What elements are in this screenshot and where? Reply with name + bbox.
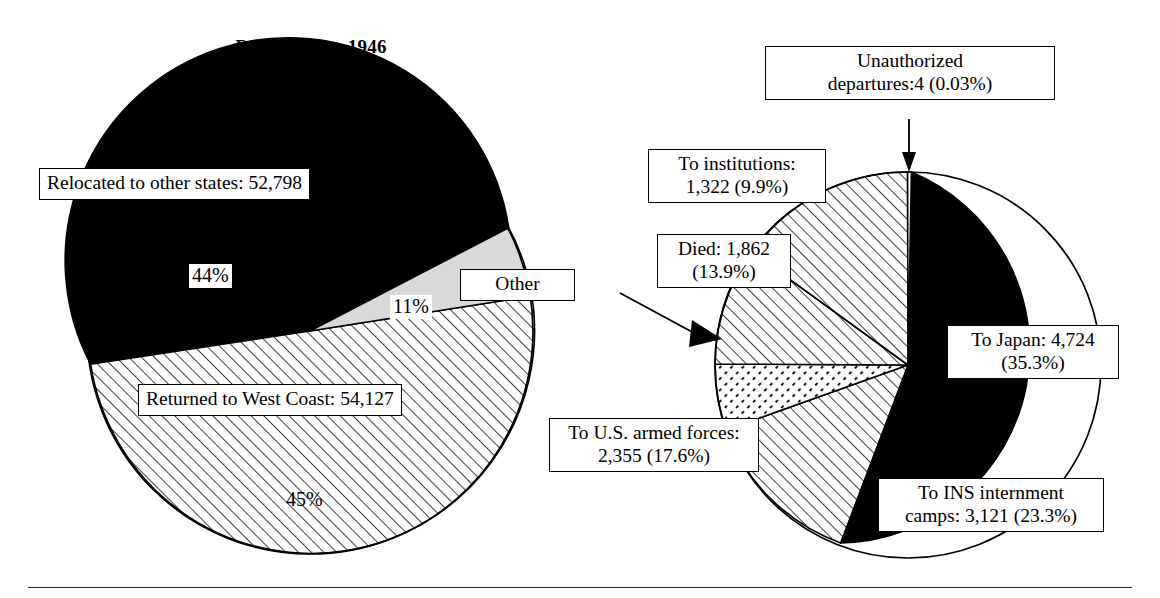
callout-unauthorized-line2: departures:4 (0.03%) (773, 73, 1047, 96)
callout-died-line1: Died: 1,862 (665, 238, 783, 261)
chart-title: Dispersed by 1946 (186, 36, 436, 58)
callout-unauthorized-line1: Unauthorized (773, 50, 1047, 73)
callout-armed-forces-line2: 2,355 (17.6%) (557, 445, 751, 468)
callout-armed-forces-line1: To U.S. armed forces: (557, 422, 751, 445)
callout-died-line2: (13.9%) (665, 261, 783, 284)
callout-institutions-line1: To institutions: (656, 153, 818, 176)
callout-died: Died: 1,862 (13.9%) (657, 234, 791, 288)
callout-ins-line2: camps: 3,121 (23.3%) (886, 505, 1096, 528)
callout-to-us-armed-forces: To U.S. armed forces: 2,355 (17.6%) (549, 418, 759, 472)
callout-to-japan: To Japan: 4,724 (35.3%) (947, 325, 1119, 379)
callout-returned-to-west-coast: Returned to West Coast: 54,127 (138, 384, 402, 416)
callout-relocated-to-other-states: Relocated to other states: 52,798 (39, 168, 310, 200)
unauthorized-leader-arrowhead (902, 152, 916, 172)
other-leader-line (620, 293, 694, 333)
figure-canvas: Dispersed by 1946 Relocated to other sta… (0, 0, 1160, 598)
callout-to-ins-internment-camps: To INS internment camps: 3,121 (23.3%) (878, 478, 1104, 532)
callout-unauthorized-departures: Unauthorized departures:4 (0.03%) (765, 46, 1055, 100)
callout-japan-line1: To Japan: 4,724 (955, 329, 1111, 352)
callout-to-institutions: To institutions: 1,322 (9.9%) (648, 149, 826, 203)
percent-label-other: 11% (390, 295, 432, 319)
bottom-divider-rule (28, 587, 1132, 588)
percent-label-relocated: 44% (189, 264, 232, 288)
percent-label-returned: 45% (283, 488, 326, 512)
callout-institutions-line2: 1,322 (9.9%) (656, 176, 818, 199)
callout-ins-line1: To INS internment (886, 482, 1096, 505)
callout-japan-line2: (35.3%) (955, 352, 1111, 375)
callout-other: Other (460, 269, 575, 301)
